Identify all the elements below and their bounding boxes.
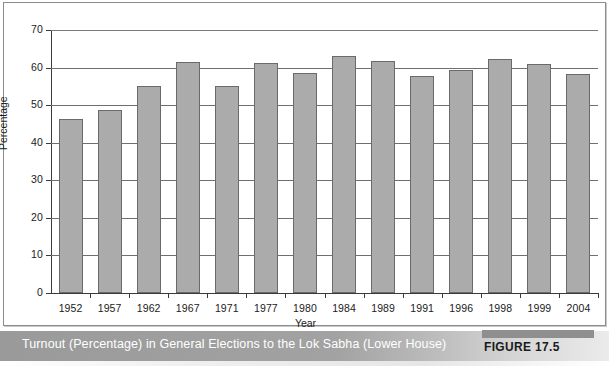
bar (293, 73, 317, 293)
caption-shadow (0, 361, 609, 366)
y-axis-tick (46, 143, 51, 144)
y-axis-tick-label: 50 (11, 98, 43, 110)
x-axis-tick-label: 1977 (244, 302, 288, 314)
x-axis-tick (520, 293, 521, 298)
y-axis-tick-label: 30 (11, 173, 43, 185)
y-axis-tick (46, 30, 51, 31)
x-axis-tick-label: 1967 (166, 302, 210, 314)
gridline (51, 218, 598, 219)
x-axis-tick-label: 1952 (49, 302, 93, 314)
x-axis-tick-label: 1989 (361, 302, 405, 314)
gridline (51, 255, 598, 256)
x-axis-tick (598, 293, 599, 298)
bar (566, 74, 590, 293)
y-axis-title: Percentage (0, 96, 9, 150)
x-axis-tick-label: 1991 (400, 302, 444, 314)
x-axis-tick (168, 293, 169, 298)
x-axis-tick (325, 293, 326, 298)
x-axis-tick (442, 293, 443, 298)
x-axis-tick (90, 293, 91, 298)
bar (410, 76, 434, 293)
gridline (51, 143, 598, 144)
bar (488, 59, 512, 293)
x-axis-tick-label: 2004 (556, 302, 600, 314)
x-axis-tick (207, 293, 208, 298)
y-axis-tick-label: 70 (11, 23, 43, 35)
y-axis-tick (46, 180, 51, 181)
y-axis-tick (46, 255, 51, 256)
figure-tag-label: FIGURE 17.5 (484, 339, 560, 354)
bar (371, 61, 395, 293)
x-axis-tick (129, 293, 130, 298)
bar (449, 70, 473, 293)
x-axis-tick-label: 1962 (127, 302, 171, 314)
chart-plate: 010203040506070 195219571962196719711977… (3, 2, 606, 326)
x-axis-tick (559, 293, 560, 298)
bar (98, 110, 122, 293)
y-axis-tick (46, 68, 51, 69)
x-axis-tick-label: 1999 (517, 302, 561, 314)
gridline (51, 68, 598, 69)
figure-tag-accent (482, 330, 594, 338)
y-axis-tick-label: 40 (11, 136, 43, 148)
bar-chart: 010203040506070 195219571962196719711977… (5, 4, 606, 326)
bar (332, 56, 356, 293)
gridline (51, 30, 598, 31)
bar (527, 64, 551, 293)
chart-plate-inner: 010203040506070 195219571962196719711977… (5, 4, 604, 324)
figure-page: 010203040506070 195219571962196719711977… (0, 0, 609, 369)
y-axis-tick (46, 105, 51, 106)
gridline (51, 180, 598, 181)
x-axis-tick-label: 1971 (205, 302, 249, 314)
x-axis-title: Year (5, 317, 606, 329)
y-axis-tick (46, 218, 51, 219)
plot-area (51, 30, 598, 293)
y-axis-tick-label: 60 (11, 61, 43, 73)
x-axis-tick-label: 1984 (322, 302, 366, 314)
bar (215, 86, 239, 293)
x-axis-tick-label: 1957 (88, 302, 132, 314)
x-axis-tick (285, 293, 286, 298)
x-axis-tick (246, 293, 247, 298)
x-axis-tick (481, 293, 482, 298)
gridline (51, 105, 598, 106)
y-axis-tick-label: 10 (11, 248, 43, 260)
bar (137, 86, 161, 293)
y-axis-tick (46, 293, 51, 294)
figure-caption: Turnout (Percentage) in General Election… (22, 337, 446, 351)
x-axis-tick-label: 1980 (283, 302, 327, 314)
y-axis-tick-label: 20 (11, 211, 43, 223)
x-axis-tick-label: 1996 (439, 302, 483, 314)
bar (176, 62, 200, 293)
x-axis-tick (403, 293, 404, 298)
y-axis-tick-label: 0 (11, 286, 43, 298)
bar (254, 63, 278, 293)
bar (59, 119, 83, 293)
x-axis-tick (364, 293, 365, 298)
x-axis-tick-label: 1998 (478, 302, 522, 314)
